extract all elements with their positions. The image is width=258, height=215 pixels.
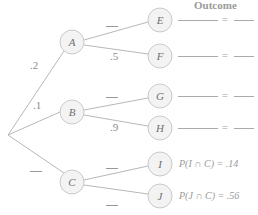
outcome-e-blank[interactable] [178,20,218,21]
prob-b-label: .1 [33,99,41,111]
outcome-j: P(J ∩ C) = .56 [179,190,239,201]
outcome-h: = [178,122,254,133]
outcome-f-value-blank[interactable] [234,56,254,57]
node-f-label: F [148,44,172,68]
prob-a-label: .2 [30,59,38,71]
outcome-g-blank[interactable] [178,96,218,97]
prob-i-blank[interactable] [106,168,118,169]
outcome-f: = [178,50,254,61]
node-a-label: A [60,30,84,54]
prob-g-blank[interactable] [106,97,118,98]
node-j-label: J [148,184,172,208]
outcome-i: P(I ∩ C) = .14 [179,158,238,169]
outcome-g-value-blank[interactable] [234,96,254,97]
prob-f-label: .5 [110,50,118,62]
outcome-h-value-blank[interactable] [234,128,254,129]
node-i-label: I [148,152,172,176]
outcome-e-value-blank[interactable] [234,20,254,21]
node-g-label: G [148,84,172,108]
prob-c-blank[interactable] [30,171,42,172]
node-e-label: E [148,8,172,32]
node-b-label: B [60,100,84,124]
outcome-e: = [178,14,254,25]
node-c-label: C [60,170,84,194]
node-h-label: H [148,116,172,140]
prob-h-label: .9 [110,121,118,133]
outcome-g: = [178,90,254,101]
prob-j-blank[interactable] [106,205,118,206]
outcome-f-blank[interactable] [178,56,218,57]
outcome-h-blank[interactable] [178,128,218,129]
outcome-heading: Outcome [194,0,237,11]
prob-e-blank[interactable] [106,26,118,27]
